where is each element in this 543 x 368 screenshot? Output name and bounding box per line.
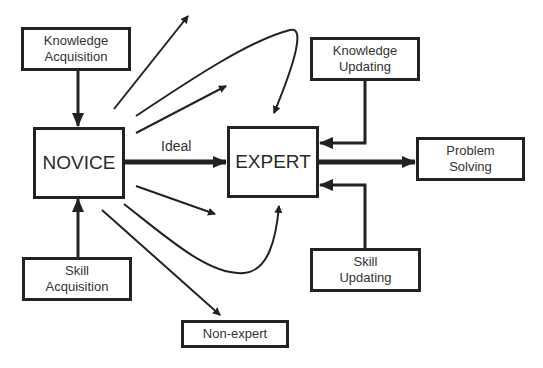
arrow-novice-curve-over-to-expert <box>136 30 297 116</box>
skill-updating-box: Skill Updating <box>310 248 421 292</box>
arrow-novice-curve-under-to-expert <box>124 204 279 273</box>
skill-acquisition-box: Skill Acquisition <box>22 257 132 301</box>
ideal-edge-label: Ideal <box>161 138 191 154</box>
novice-box: NOVICE <box>33 127 125 199</box>
knowledge-acquisition-box: Knowledge Acquisition <box>21 27 131 71</box>
arrow-novice-diverge-3 <box>136 186 215 214</box>
knowledge-updating-box: Knowledge Updating <box>310 37 420 81</box>
problem-solving-box: Problem Solving <box>416 137 525 181</box>
non-expert-box: Non-expert <box>181 320 289 348</box>
arrow-novice-diverge-2 <box>136 86 226 133</box>
expert-box: EXPERT <box>227 126 319 198</box>
arrow-skill-updating-to-expert <box>320 185 365 248</box>
arrow-knowledge-updating-to-expert <box>320 80 365 143</box>
